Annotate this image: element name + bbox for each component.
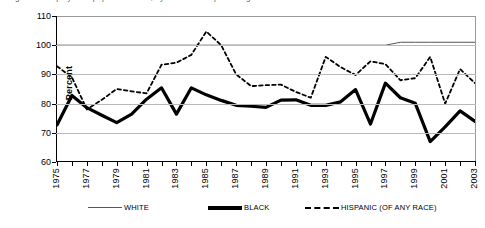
x-tick-label-2003: 2003	[470, 168, 479, 189]
legend-swatch-icon	[208, 206, 242, 210]
x-tick-mark-1990	[281, 162, 282, 166]
x-tick-mark-2001	[445, 162, 446, 166]
legend-label: HISPANIC (OF ANY RACE)	[341, 203, 437, 212]
y-tick-label-100: 100	[36, 41, 51, 50]
legend-swatch-icon	[88, 207, 122, 208]
gridline-100	[56, 45, 476, 46]
x-tick-mark-1975	[57, 162, 58, 166]
y-tick-mark-90	[52, 74, 56, 75]
x-tick-mark-1987	[236, 162, 237, 166]
x-tick-label-1977: 1977	[82, 168, 91, 189]
x-tick-label-1989: 1989	[261, 168, 270, 189]
y-axis-label: Percent	[64, 66, 74, 100]
x-tick-mark-2000	[430, 162, 431, 166]
x-tick-mark-1991	[296, 162, 297, 166]
plot-frame-top	[56, 16, 476, 17]
legend-item-white[interactable]: WHITE	[88, 203, 149, 212]
legend-swatch-icon	[305, 207, 339, 209]
y-tick-label-80: 80	[41, 99, 51, 108]
x-tick-mark-1983	[176, 162, 177, 166]
plot-area: 11010090807060 Percent	[56, 16, 476, 162]
x-tick-mark-1979	[117, 162, 118, 166]
y-tick-label-70: 70	[41, 128, 51, 137]
x-tick-mark-1989	[266, 162, 267, 166]
x-tick-label-1987: 1987	[231, 168, 240, 189]
legend-label: WHITE	[124, 203, 149, 212]
x-tick-label-1983: 1983	[171, 168, 180, 189]
y-tick-mark-110	[52, 16, 56, 17]
x-tick-label-1999: 1999	[410, 168, 419, 189]
x-tick-mark-1981	[147, 162, 148, 166]
legend-item-hispanic-of-any-race[interactable]: HISPANIC (OF ANY RACE)	[305, 203, 437, 212]
series-lines	[56, 16, 476, 162]
x-tick-mark-1995	[356, 162, 357, 166]
gridline-70	[56, 133, 476, 134]
chart-legend: WHITEBLACKHISPANIC (OF ANY RACE)	[0, 203, 485, 221]
y-tick-mark-100	[52, 45, 56, 46]
legend-item-black[interactable]: BLACK	[208, 203, 269, 212]
gridline-90	[56, 74, 476, 75]
x-tick-mark-1985	[206, 162, 207, 166]
x-tick-mark-1998	[400, 162, 401, 166]
x-tick-label-1997: 1997	[380, 168, 389, 189]
x-tick-mark-1992	[311, 162, 312, 166]
y-tick-mark-60	[52, 162, 56, 163]
x-tick-mark-1977	[87, 162, 88, 166]
x-tick-mark-2003	[475, 162, 476, 166]
x-tick-mark-1993	[326, 162, 327, 166]
x-tick-mark-1988	[251, 162, 252, 166]
x-tick-label-1979: 1979	[112, 168, 121, 189]
x-tick-label-1985: 1985	[201, 168, 210, 189]
x-tick-label-1981: 1981	[142, 168, 151, 189]
legend-label: BLACK	[244, 203, 269, 212]
x-tick-label-2001: 2001	[440, 168, 449, 189]
x-tick-mark-1978	[102, 162, 103, 166]
x-tick-label-1991: 1991	[291, 168, 300, 189]
x-tick-mark-1980	[132, 162, 133, 166]
plot-frame-right	[475, 16, 476, 162]
x-tick-mark-2002	[460, 162, 461, 166]
x-tick-mark-1976	[72, 162, 73, 166]
x-tick-mark-1986	[221, 162, 222, 166]
x-tick-mark-1996	[371, 162, 372, 166]
x-tick-label-1993: 1993	[321, 168, 330, 189]
chart-root: Figure 2. Employment population ratio, b…	[0, 0, 485, 228]
plot-frame-left	[56, 16, 57, 162]
series-line-hispanic-of-any-race	[57, 31, 475, 109]
x-tick-mark-1994	[341, 162, 342, 166]
gridline-80	[56, 104, 476, 105]
x-tick-label-1995: 1995	[351, 168, 360, 189]
y-tick-mark-80	[52, 104, 56, 105]
x-tick-mark-1982	[162, 162, 163, 166]
y-tick-label-110: 110	[37, 12, 51, 21]
y-tick-label-60: 60	[41, 158, 51, 167]
y-tick-mark-70	[52, 133, 56, 134]
x-tick-mark-1984	[191, 162, 192, 166]
x-tick-mark-1999	[415, 162, 416, 166]
x-tick-label-1975: 1975	[52, 168, 61, 189]
clipped-title: Figure 2. Employment population ratio, b…	[8, 0, 338, 3]
x-tick-mark-1997	[385, 162, 386, 166]
y-tick-label-90: 90	[41, 70, 51, 79]
